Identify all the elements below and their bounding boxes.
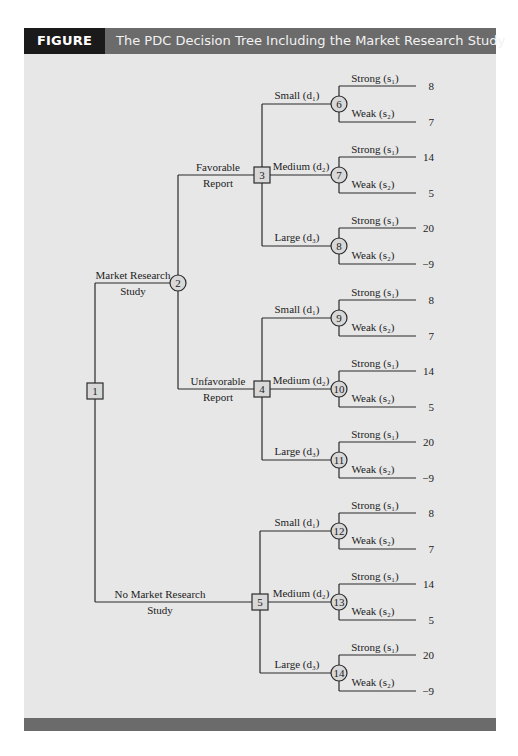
option-label-large: Large (d₃) (275, 231, 320, 244)
branch-label-market-research-2: Study (120, 285, 146, 297)
payoff-value: 7 (429, 330, 435, 342)
node-label-3: 3 (259, 169, 265, 181)
option-label-large: Large (d₃) (275, 445, 320, 458)
state-weak: Weak (s₂) (352, 178, 395, 191)
node-label-1: 1 (92, 385, 98, 397)
chance-node-2: 2 (170, 275, 186, 291)
branch-label-favorable-1: Favorable (196, 161, 240, 173)
option-label-medium: Medium (d₂) (273, 587, 330, 600)
branch-label-no-research-1: No Market Research (114, 588, 206, 600)
state-weak: Weak (s₂) (352, 107, 395, 120)
state-weak: Weak (s₂) (352, 676, 395, 689)
payoff-value: 7 (429, 543, 435, 555)
state-strong: Strong (s₁) (351, 357, 399, 370)
state-strong: Strong (s₁) (351, 143, 399, 156)
state-weak: Weak (s₂) (352, 605, 395, 618)
node-label-9: 9 (336, 312, 342, 324)
node-label-5: 5 (257, 596, 263, 608)
root-branches (95, 283, 252, 602)
report-branches (178, 175, 254, 389)
state-strong: Strong (s₁) (351, 214, 399, 227)
state-strong: Strong (s₁) (351, 286, 399, 299)
payoff-value: −9 (422, 472, 434, 484)
state-weak: Weak (s₂) (352, 249, 395, 262)
option-label-large: Large (d₃) (275, 658, 320, 671)
state-weak: Weak (s₂) (352, 392, 395, 405)
node-label-2: 2 (175, 277, 181, 289)
branch-label-market-research-1: Market Research (96, 269, 171, 281)
payoff-value: 7 (429, 116, 435, 128)
payoff-value: 20 (423, 649, 435, 661)
node-label-10: 10 (334, 383, 346, 395)
decision-node-1: 1 (87, 383, 103, 399)
state-strong: Strong (s₁) (351, 428, 399, 441)
payoff-value: 14 (423, 578, 435, 590)
node-label-13: 13 (334, 596, 346, 608)
state-strong: Strong (s₁) (351, 72, 399, 85)
state-weak: Weak (s₂) (352, 534, 395, 547)
node-label-14: 14 (334, 667, 346, 679)
node-label-4: 4 (259, 383, 265, 395)
state-strong: Strong (s₁) (351, 570, 399, 583)
branch-label-unfavorable-2: Report (203, 391, 233, 403)
state-weak: Weak (s₂) (352, 463, 395, 476)
payoff-value: 8 (429, 80, 435, 92)
state-strong: Strong (s₁) (351, 641, 399, 654)
payoff-value: −9 (422, 685, 434, 697)
branch-label-unfavorable-1: Unfavorable (191, 375, 246, 387)
node-label-8: 8 (336, 240, 342, 252)
payoff-value: 5 (429, 614, 435, 626)
option-label-small: Small (d₁) (274, 303, 319, 316)
payoff-value: 14 (423, 151, 435, 163)
payoff-value: 20 (423, 436, 435, 448)
payoff-value: 20 (423, 222, 435, 234)
branch-label-favorable-2: Report (203, 177, 233, 189)
payoff-value: 5 (429, 187, 435, 199)
option-label-small: Small (d₁) (274, 516, 319, 529)
node-label-12: 12 (334, 525, 345, 537)
payoff-value: −9 (422, 258, 434, 270)
option-label-medium: Medium (d₂) (273, 160, 330, 173)
option-label-small: Small (d₁) (274, 89, 319, 102)
state-strong: Strong (s₁) (351, 499, 399, 512)
node-label-7: 7 (336, 169, 342, 181)
payoff-value: 5 (429, 401, 435, 413)
node-label-11: 11 (334, 454, 345, 466)
state-weak: Weak (s₂) (352, 321, 395, 334)
option-label-medium: Medium (d₂) (273, 374, 330, 387)
payoff-value: 8 (429, 507, 435, 519)
payoff-value: 14 (423, 365, 435, 377)
branch-label-no-research-2: Study (147, 604, 173, 616)
node-label-6: 6 (336, 98, 342, 110)
decision-tree: Market Research Study No Market Research… (0, 0, 518, 756)
payoff-value: 8 (429, 294, 435, 306)
